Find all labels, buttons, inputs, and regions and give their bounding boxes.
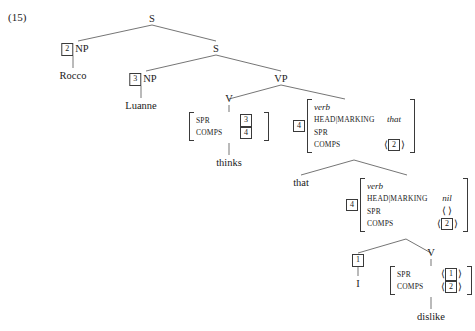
type-verb: verb	[367, 182, 383, 191]
node-np-rocco: 2 NP	[61, 43, 88, 56]
avm-thinks-body: SPR 3 COMPS 4	[189, 112, 269, 141]
angle-open: ⟨	[384, 140, 388, 150]
avm-lower-clause-body: verb HEAD|MARKING nil SPR ⟨ ⟩ COMPS ⟨ 2 …	[360, 178, 468, 232]
angle-open: ⟨	[441, 269, 445, 279]
feature-spr: SPR	[397, 271, 437, 279]
feature-comps: COMPS	[367, 220, 433, 228]
value-comps-list: ⟨ 2 ⟩	[437, 281, 465, 294]
avm-vp-complement: 4 verb HEAD|MARKING that SPR COMPS ⟨ 2 ⟩	[293, 99, 415, 153]
tag-3: 3	[129, 73, 141, 86]
value-marking: nil	[433, 194, 461, 203]
feature-comps: COMPS	[196, 129, 240, 137]
avm-thinks: SPR 3 COMPS 4	[189, 112, 269, 141]
tag-1: 1	[445, 268, 457, 281]
value-comps-list: ⟨ 2 ⟩	[433, 218, 461, 231]
avm-row-comps: COMPS ⟨ 2 ⟩	[397, 281, 465, 294]
value-spr-list: ⟨ 1 ⟩	[437, 268, 465, 281]
feature-head-marking: HEAD|MARKING	[367, 195, 433, 203]
avm-vp-complement-body: verb HEAD|MARKING that SPR COMPS ⟨ 2 ⟩	[307, 99, 415, 153]
feature-spr: SPR	[196, 117, 240, 125]
syntax-tree-figure: (15) S 2 NP Rocco S 3 NP Luanne VP V SPR…	[0, 0, 475, 331]
avm-dislike-body: SPR ⟨ 1 ⟩ COMPS ⟨ 2 ⟩	[390, 266, 472, 295]
node-np-rocco-label: NP	[75, 44, 88, 55]
feature-spr: SPR	[367, 208, 433, 216]
tag-2: 2	[445, 281, 457, 294]
feature-comps: COMPS	[314, 141, 380, 149]
angle-close: ⟩	[458, 269, 462, 279]
avm-dislike: SPR ⟨ 1 ⟩ COMPS ⟨ 2 ⟩	[390, 266, 472, 295]
avm-row-head-marking: HEAD|MARKING that	[314, 114, 408, 127]
node-np-luanne-label: NP	[143, 74, 156, 85]
word-that-complementizer: that	[293, 178, 309, 189]
avm-row-spr: SPR 3	[196, 114, 262, 127]
angle-open: ⟨	[437, 219, 441, 229]
avm-row-head-marking: HEAD|MARKING nil	[367, 193, 461, 206]
avm-lower-clause: 4 verb HEAD|MARKING nil SPR ⟨ ⟩ COMPS ⟨ …	[346, 178, 468, 232]
value-comps-list: ⟨ 2 ⟩	[380, 139, 408, 152]
node-s-top: S	[149, 14, 155, 25]
node-s-mid: S	[213, 44, 219, 55]
value-marking: that	[380, 115, 408, 124]
tag-4: 4	[346, 199, 358, 212]
tag-1-subject: 1	[352, 254, 364, 267]
node-vp: VP	[274, 74, 287, 85]
node-v-thinks: V	[225, 94, 233, 105]
tag-4: 4	[240, 127, 252, 140]
feature-spr: SPR	[314, 129, 380, 137]
tag-2: 2	[388, 139, 400, 152]
word-rocco: Rocco	[60, 71, 87, 82]
word-i: I	[356, 279, 360, 290]
angle-close: ⟩	[454, 219, 458, 229]
tag-4: 4	[293, 120, 305, 133]
avm-row-comps: COMPS ⟨ 2 ⟩	[367, 218, 461, 231]
avm-row-spr: SPR	[314, 126, 408, 139]
avm-row-spr: SPR ⟨ 1 ⟩	[397, 268, 465, 281]
word-thinks: thinks	[216, 158, 242, 169]
avm-row-spr: SPR ⟨ ⟩	[367, 205, 461, 218]
value-comps: 4	[240, 127, 262, 140]
value-spr: 3	[240, 114, 262, 127]
angle-close: ⟩	[458, 282, 462, 292]
tag-2: 2	[441, 218, 453, 231]
angle-open: ⟨	[441, 282, 445, 292]
example-number: (15)	[8, 12, 26, 23]
feature-comps: COMPS	[397, 283, 437, 291]
word-luanne: Luanne	[125, 101, 157, 112]
avm-row-comps: COMPS ⟨ 2 ⟩	[314, 139, 408, 152]
type-verb: verb	[314, 103, 330, 112]
tag-3: 3	[240, 114, 252, 127]
node-v-dislike: V	[427, 248, 435, 259]
node-np-luanne: 3 NP	[129, 73, 156, 86]
angle-close: ⟩	[401, 140, 405, 150]
avm-row-type: verb	[367, 180, 461, 193]
value-spr-empty-list: ⟨ ⟩	[433, 206, 461, 216]
word-dislike: dislike	[417, 312, 445, 323]
feature-head-marking: HEAD|MARKING	[314, 116, 380, 124]
avm-row-type: verb	[314, 101, 408, 114]
avm-row-comps: COMPS 4	[196, 127, 262, 140]
tag-2: 2	[61, 43, 73, 56]
